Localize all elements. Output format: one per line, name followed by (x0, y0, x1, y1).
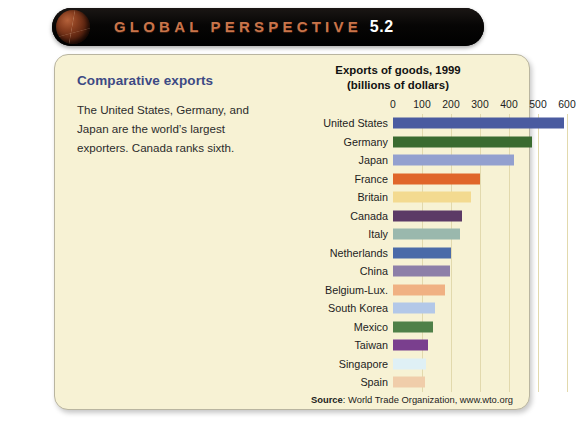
callout-column: Comparative exports The United States, G… (77, 73, 252, 157)
source-label: Source (311, 394, 343, 405)
x-tick-200: 200 (442, 99, 459, 110)
x-tick-0: 0 (390, 99, 396, 110)
x-tick-400: 400 (500, 99, 517, 110)
banner-background: GLOBAL PERSPECTIVE5.2 (52, 8, 484, 46)
chart-row: South Korea (245, 299, 517, 318)
chart-row: Belgium-Lux. (245, 281, 517, 300)
chart-title: Exports of goods, 1999 (279, 63, 517, 78)
source-text: : World Trade Organization, www.wto.org (343, 394, 513, 405)
callout-body: The United States, Germany, and Japan ar… (77, 100, 252, 157)
bar-france (393, 173, 480, 184)
bar-label-south-korea: South Korea (245, 302, 388, 314)
bar-label-singapore: Singapore (245, 358, 388, 370)
chart-bars: United StatesGermanyJapanFranceBritainCa… (245, 114, 517, 392)
globe-meridian-lines (56, 10, 90, 44)
bar-italy (393, 229, 460, 240)
bar-label-france: France (245, 173, 388, 185)
bar-label-canada: Canada (245, 210, 388, 222)
chart-subtitle: (billions of dollars) (279, 78, 517, 93)
banner-number: 5.2 (370, 18, 394, 35)
bar-label-italy: Italy (245, 228, 388, 240)
bar-label-japan: Japan (245, 154, 388, 166)
chart-row: Singapore (245, 355, 517, 374)
banner-title-text: GLOBAL PERSPECTIVE (114, 18, 362, 35)
bar-britain (393, 192, 471, 203)
chart-row: Spain (245, 373, 517, 392)
chart-row: Taiwan (245, 336, 517, 355)
bar-label-britain: Britain (245, 191, 388, 203)
chart-row: Canada (245, 207, 517, 226)
bar-label-taiwan: Taiwan (245, 339, 388, 351)
bar-singapore (393, 358, 426, 369)
bar-south-korea (393, 303, 435, 314)
bar-united-states (393, 118, 564, 129)
chart-title-block: Exports of goods, 1999 (billions of doll… (245, 63, 517, 92)
bar-germany (393, 136, 532, 147)
bar-canada (393, 210, 462, 221)
chart-row: Japan (245, 151, 517, 170)
chart-row: Mexico (245, 318, 517, 337)
bar-belgium-lux (393, 284, 445, 295)
chart-row: France (245, 170, 517, 189)
globe-icon (56, 10, 90, 44)
exports-bar-chart: Exports of goods, 1999 (billions of doll… (245, 63, 517, 403)
chart-row: Britain (245, 188, 517, 207)
bar-label-germany: Germany (245, 136, 388, 148)
bar-label-united-states: United States (245, 117, 388, 129)
chart-row: China (245, 262, 517, 281)
content-card: Comparative exports The United States, G… (54, 54, 530, 410)
bar-label-spain: Spain (245, 376, 388, 388)
bar-mexico (393, 321, 433, 332)
banner-title: GLOBAL PERSPECTIVE5.2 (114, 18, 394, 36)
x-tick-600: 600 (558, 99, 575, 110)
chart-source: Source: World Trade Organization, www.wt… (245, 394, 513, 405)
chart-row: Germany (245, 133, 517, 152)
chart-row: United States (245, 114, 517, 133)
x-tick-100: 100 (413, 99, 430, 110)
gridline-600 (567, 114, 568, 392)
bar-spain (393, 377, 425, 388)
bar-label-belgium-lux: Belgium-Lux. (245, 284, 388, 296)
chart-row: Netherlands (245, 244, 517, 263)
chart-row: Italy (245, 225, 517, 244)
x-tick-500: 500 (529, 99, 546, 110)
bar-label-netherlands: Netherlands (245, 247, 388, 259)
bar-china (393, 266, 450, 277)
gridline-500 (538, 114, 539, 392)
bar-label-mexico: Mexico (245, 321, 388, 333)
bar-label-china: China (245, 265, 388, 277)
x-tick-300: 300 (471, 99, 488, 110)
callout-heading: Comparative exports (77, 73, 252, 88)
x-axis-ticks: 0100200300400500600 (393, 99, 567, 112)
global-perspective-banner: GLOBAL PERSPECTIVE5.2 (52, 8, 484, 46)
bar-japan (393, 155, 514, 166)
bar-taiwan (393, 340, 428, 351)
chart-plot-area: 0100200300400500600 United StatesGermany… (245, 99, 517, 403)
bar-netherlands (393, 247, 451, 258)
